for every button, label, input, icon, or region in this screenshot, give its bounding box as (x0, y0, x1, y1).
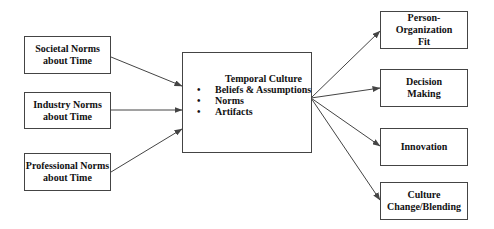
box-label-line2: about Time (33, 111, 102, 123)
bullet-text: Beliefs & Assumptions (215, 84, 311, 95)
center-bullet-list: • Beliefs & Assumptions • Norms • Artifa… (197, 84, 311, 117)
box-label-line2: Making (406, 88, 442, 100)
arrow-center-to-decision (311, 88, 380, 98)
box-decision-making: Decision Making (380, 69, 468, 107)
arrow-center-to-person-org (311, 31, 380, 98)
bullet-item: • Beliefs & Assumptions (197, 84, 311, 95)
box-label-line2: Fit (381, 36, 467, 48)
box-industry-norms: Industry Norms about Time (24, 92, 111, 129)
bullet-item: • Norms (197, 95, 311, 106)
box-label-line1: Decision (406, 76, 442, 88)
box-label-line1: Innovation (401, 141, 448, 153)
box-label-line2: Change/Blending (387, 201, 461, 213)
bullet-icon: • (197, 106, 215, 117)
box-innovation: Innovation (380, 128, 468, 166)
box-label-line1: Culture (387, 189, 461, 201)
arrow-center-to-innovation (311, 98, 380, 146)
box-label-line1: Societal Norms (35, 43, 100, 55)
arrow-professional-to-center (111, 129, 182, 172)
bullet-icon: • (197, 84, 215, 95)
box-label-line1: Person-Organization (381, 12, 467, 36)
bullet-item: • Artifacts (197, 106, 311, 117)
bullet-text: Norms (215, 95, 244, 106)
box-label-line1: Industry Norms (33, 99, 102, 111)
bullet-text: Artifacts (215, 106, 253, 117)
box-person-organization-fit: Person-Organization Fit (380, 11, 468, 49)
box-culture-change-blending: Culture Change/Blending (380, 182, 468, 220)
arrow-societal-to-center (111, 57, 182, 86)
bullet-icon: • (197, 95, 215, 106)
arrow-center-to-culture-change (311, 98, 380, 200)
box-label-line2: about Time (35, 55, 100, 67)
box-temporal-culture: Temporal Culture • Beliefs & Assumptions… (182, 52, 312, 153)
box-professional-norms: Professional Norms about Time (24, 153, 111, 191)
box-societal-norms: Societal Norms about Time (24, 36, 111, 74)
center-title: Temporal Culture (225, 73, 302, 84)
box-label-line2: about Time (26, 172, 109, 184)
box-label-line1: Professional Norms (26, 160, 109, 172)
